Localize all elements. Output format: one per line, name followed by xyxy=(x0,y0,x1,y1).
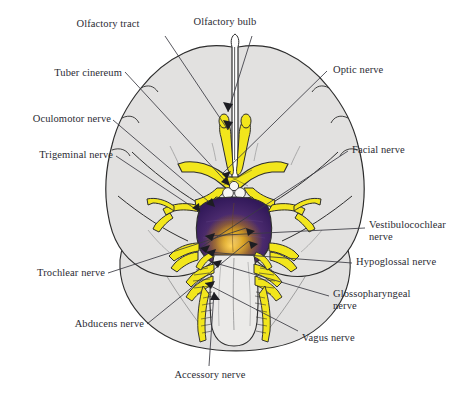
label-trigeminal-nerve: Trigeminal nerve xyxy=(0,149,113,161)
label-facial-nerve: Facial nerve xyxy=(352,144,467,156)
label-abducens-nerve: Abducens nerve xyxy=(0,318,144,330)
label-oculomotor-nerve: Oculomotor nerve xyxy=(0,113,111,125)
label-tuber-cinereum: Tuber cinereum xyxy=(0,67,122,79)
label-trochlear-nerve: Trochlear nerve xyxy=(0,267,105,279)
label-accessory-nerve: Accessory nerve xyxy=(130,369,290,381)
cranial-nerves-figure: Olfactory tract Olfactory bulb Tuber cin… xyxy=(0,0,469,399)
label-vestibulocochlear-nerve: Vestibulocochlear nerve xyxy=(369,219,469,243)
label-optic-nerve: Optic nerve xyxy=(333,64,463,76)
label-vagus-nerve: Vagus nerve xyxy=(302,332,412,344)
label-glossopharyngeal-nerve: Glossopharyngeal nerve xyxy=(333,288,469,312)
label-olfactory-bulb: Olfactory bulb xyxy=(152,16,298,28)
label-hypoglossal-nerve: Hypoglossal nerve xyxy=(356,256,469,268)
